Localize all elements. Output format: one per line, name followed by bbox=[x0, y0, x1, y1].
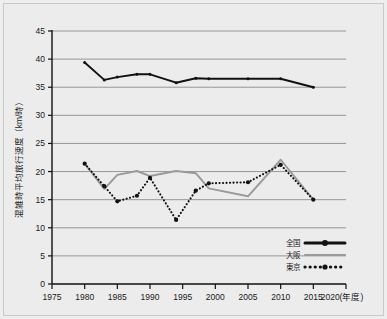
series-line-全国 bbox=[85, 62, 314, 87]
y-tick-label: 25 bbox=[36, 138, 46, 148]
series-marker-東京 bbox=[279, 163, 283, 167]
series-marker-東京 bbox=[115, 199, 119, 203]
series-marker-東京 bbox=[148, 176, 152, 180]
series-marker-全国 bbox=[312, 86, 315, 89]
x-tick-label: 1985 bbox=[108, 292, 127, 302]
series-marker-全国 bbox=[116, 76, 119, 79]
data-series-group bbox=[83, 61, 316, 222]
series-marker-東京 bbox=[135, 194, 139, 198]
series-marker-東京 bbox=[246, 180, 250, 184]
y-tick-label: 5 bbox=[40, 251, 45, 261]
y-axis-title-text: 混雑時平均旅行速度（km/時） bbox=[14, 97, 24, 219]
legend-label-全国: 全国 bbox=[286, 238, 300, 248]
series-marker-全国 bbox=[149, 73, 152, 76]
series-marker-全国 bbox=[103, 78, 106, 81]
x-tick-labels-group: 1975198019851990199520002005201020152020… bbox=[43, 292, 364, 302]
y-tick-label: 20 bbox=[36, 167, 46, 177]
legend-label-東京: 東京 bbox=[286, 262, 301, 272]
line-chart: 051015202530354045 197519801985199019952… bbox=[4, 4, 385, 317]
y-axis-title: 混雑時平均旅行速度（km/時） bbox=[14, 97, 24, 219]
legend-marker-全国 bbox=[322, 240, 328, 246]
x-tick-label: 1995 bbox=[173, 292, 192, 302]
series-marker-全国 bbox=[247, 77, 250, 80]
series-marker-全国 bbox=[207, 77, 210, 80]
y-tick-label: 40 bbox=[36, 54, 46, 64]
series-marker-東京 bbox=[102, 184, 106, 188]
series-marker-全国 bbox=[194, 77, 197, 80]
series-marker-東京 bbox=[207, 181, 211, 185]
chart-legend: 全国大阪東京 bbox=[286, 238, 345, 272]
gridlines-group bbox=[52, 31, 346, 256]
y-tick-label: 10 bbox=[36, 223, 46, 233]
y-tick-label: 0 bbox=[40, 279, 45, 289]
series-marker-東京 bbox=[83, 162, 87, 166]
chart-frame: 051015202530354045 197519801985199019952… bbox=[3, 3, 384, 316]
x-tick-label: 2005 bbox=[239, 292, 258, 302]
x-tick-label: 1990 bbox=[141, 292, 160, 302]
axes-group bbox=[52, 30, 346, 284]
series-marker-全国 bbox=[175, 81, 178, 84]
series-marker-全国 bbox=[83, 61, 86, 64]
series-marker-全国 bbox=[279, 77, 282, 80]
y-tick-label: 35 bbox=[36, 82, 46, 92]
series-line-東京 bbox=[85, 164, 314, 220]
series-marker-全国 bbox=[135, 73, 138, 76]
series-marker-東京 bbox=[194, 189, 198, 193]
x-tick-label: 1980 bbox=[75, 292, 94, 302]
legend-marker-東京 bbox=[322, 264, 327, 269]
y-tick-label: 30 bbox=[36, 110, 46, 120]
series-marker-東京 bbox=[311, 198, 315, 202]
x-tick-label: 2000 bbox=[206, 292, 225, 302]
y-tick-label: 15 bbox=[36, 195, 46, 205]
series-marker-東京 bbox=[174, 218, 178, 222]
x-tick-label: 1975 bbox=[43, 292, 62, 302]
legend-label-大阪: 大阪 bbox=[286, 250, 301, 260]
chart-screenshot: 051015202530354045 197519801985199019952… bbox=[0, 0, 387, 319]
x-tick-label: 2010 bbox=[271, 292, 290, 302]
x-tick-label: 2020(年度) bbox=[321, 292, 364, 302]
y-tick-label: 45 bbox=[36, 26, 46, 36]
y-tick-labels-group: 051015202530354045 bbox=[36, 26, 46, 289]
